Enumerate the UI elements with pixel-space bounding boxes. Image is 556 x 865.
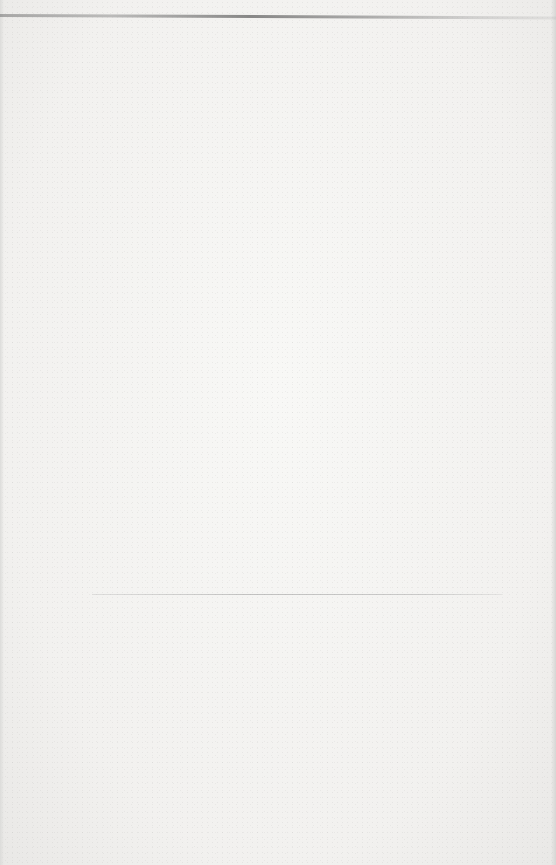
scanned-page	[0, 0, 556, 865]
lower-horizontal-rule	[92, 594, 502, 595]
page-edge-left	[0, 0, 4, 865]
paper-texture	[0, 0, 556, 865]
page-edge-right	[551, 0, 556, 865]
